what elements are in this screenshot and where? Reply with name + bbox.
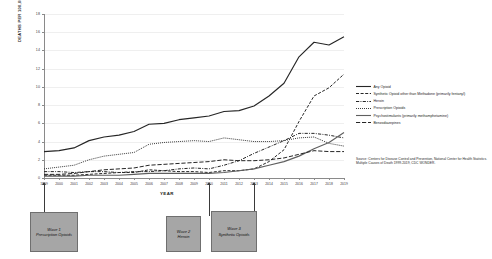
legend-swatch-icon — [356, 84, 371, 89]
legend-label: Benzodiazepines — [374, 121, 401, 125]
y-tick-label: 0 — [26, 176, 40, 180]
y-tick-label: 2 — [26, 158, 40, 162]
series-lines — [44, 14, 344, 178]
legend-label: Synthetic Opioid other than Methadone (p… — [374, 92, 466, 96]
series-line — [44, 137, 344, 169]
wave-callout-box[interactable]: Wave 3Synthetic Opioids — [211, 211, 257, 252]
legend-item[interactable]: Synthetic Opioid other than Methadone (p… — [356, 91, 492, 96]
series-line — [44, 132, 344, 176]
wave-subtitle: Heroin — [177, 234, 191, 239]
x-axis-title: YEAR — [160, 191, 174, 196]
y-axis-title: DEATHS PER 100,000 POPULATION — [17, 0, 22, 42]
wave-callout-box[interactable]: Wave 2Heroin — [166, 216, 201, 252]
wave-callout-box[interactable]: Wave 1Prescription Opioids — [30, 212, 78, 252]
x-tick-label: 2014 — [261, 182, 277, 186]
x-tick-mark — [44, 178, 45, 180]
x-tick-mark — [74, 178, 75, 180]
x-tick-label: 2016 — [291, 182, 307, 186]
legend-swatch-icon — [356, 106, 371, 111]
series-line — [44, 37, 344, 152]
x-tick-label: 2017 — [306, 182, 322, 186]
wave-subtitle: Synthetic Opioids — [218, 232, 249, 237]
wave-callout-label: Wave 3Synthetic Opioids — [216, 226, 251, 236]
wave-callout-label: Wave 2Heroin — [175, 229, 193, 239]
wave-callout-label: Wave 1Prescription Opioids — [34, 227, 74, 237]
legend-label: Prescription Opioids — [374, 106, 406, 110]
wave-leader-line — [254, 185, 255, 211]
plot-area: 181614121086420 199920002001200220032004… — [44, 14, 344, 178]
legend-swatch-icon — [356, 99, 371, 104]
x-tick-mark — [344, 178, 345, 180]
series-line — [44, 151, 344, 175]
x-tick-mark — [209, 178, 210, 180]
legend-label: Psychostimulants (primarily methamphetam… — [374, 114, 449, 118]
x-tick-label: 2000 — [51, 182, 67, 186]
x-tick-mark — [104, 178, 105, 180]
y-tick-label: 14 — [26, 48, 40, 52]
x-tick-mark — [254, 178, 255, 180]
x-tick-label: 2005 — [126, 182, 142, 186]
x-tick-mark — [149, 178, 150, 180]
x-tick-mark — [134, 178, 135, 180]
y-tick-label: 8 — [26, 103, 40, 107]
x-tick-mark — [194, 178, 195, 180]
x-tick-mark — [89, 178, 90, 180]
legend-swatch-icon — [356, 91, 371, 96]
legend-item[interactable]: Any Opioid — [356, 84, 492, 89]
legend-item[interactable]: Benzodiazepines — [356, 120, 492, 125]
y-tick-label: 10 — [26, 85, 40, 89]
legend-item[interactable]: Psychostimulants (primarily methamphetam… — [356, 113, 492, 118]
x-tick-label: 2011 — [216, 182, 232, 186]
source-note: Source: Centers for Disease Control and … — [356, 157, 488, 165]
x-tick-mark — [299, 178, 300, 180]
x-tick-label: 2002 — [81, 182, 97, 186]
x-tick-mark — [284, 178, 285, 180]
wave-subtitle: Prescription Opioids — [36, 232, 72, 237]
x-tick-mark — [239, 178, 240, 180]
x-tick-label: 2009 — [186, 182, 202, 186]
legend-label: Any Opioid — [374, 85, 391, 89]
x-tick-label: 2015 — [276, 182, 292, 186]
legend-item[interactable]: Heroin — [356, 99, 492, 104]
y-tick-label: 4 — [26, 140, 40, 144]
x-tick-label: 2003 — [96, 182, 112, 186]
y-tick-label: 6 — [26, 121, 40, 125]
legend-label: Heroin — [374, 99, 384, 103]
wave-leader-line — [44, 185, 45, 212]
x-tick-label: 2007 — [156, 182, 172, 186]
x-tick-mark — [314, 178, 315, 180]
x-tick-label: 2006 — [141, 182, 157, 186]
series-line — [44, 133, 344, 172]
x-tick-label: 2012 — [231, 182, 247, 186]
x-tick-label: 2019 — [336, 182, 352, 186]
legend-swatch-icon — [356, 113, 371, 118]
x-tick-label: 2008 — [171, 182, 187, 186]
x-tick-mark — [119, 178, 120, 180]
chart-root: DEATHS PER 100,000 POPULATION 1816141210… — [0, 0, 492, 259]
x-tick-label: 2004 — [111, 182, 127, 186]
wave-leader-line — [209, 185, 210, 216]
y-tick-label: 12 — [26, 67, 40, 71]
x-tick-mark — [164, 178, 165, 180]
x-tick-mark — [59, 178, 60, 180]
x-tick-mark — [224, 178, 225, 180]
legend-swatch-icon — [356, 120, 371, 125]
x-tick-mark — [179, 178, 180, 180]
x-tick-label: 2018 — [321, 182, 337, 186]
y-tick-label: 18 — [26, 12, 40, 16]
x-tick-label: 2001 — [66, 182, 82, 186]
x-tick-mark — [329, 178, 330, 180]
y-tick-label: 16 — [26, 30, 40, 34]
legend: Any OpioidSynthetic Opioid other than Me… — [356, 84, 492, 128]
legend-item[interactable]: Prescription Opioids — [356, 106, 492, 111]
x-tick-mark — [269, 178, 270, 180]
